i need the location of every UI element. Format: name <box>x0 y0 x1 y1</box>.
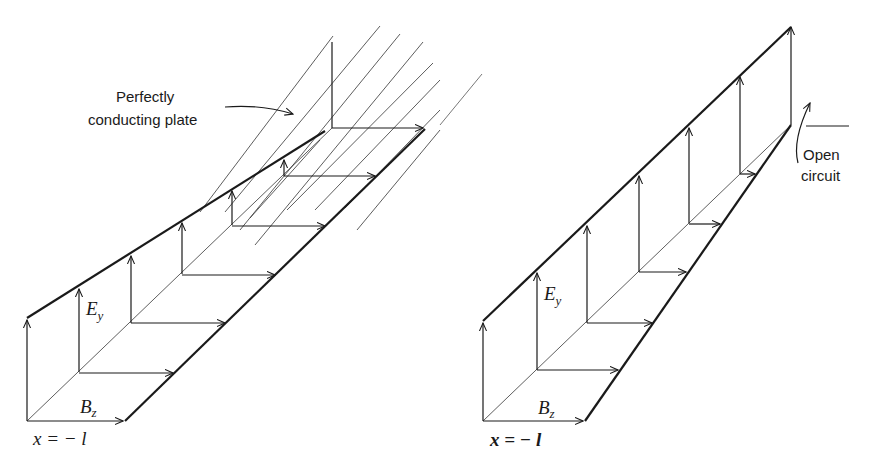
e-field-arrows <box>27 160 284 421</box>
floor-diagonal <box>27 128 332 421</box>
b-field-arrows <box>483 174 755 421</box>
plate-label-line1: Perfectly <box>116 88 175 105</box>
right-panel-labels: Open circuit Ey Bz x = − l <box>489 146 841 450</box>
floor-diagonal <box>483 125 791 421</box>
right-e-label: Ey <box>543 283 562 308</box>
plate-pointer-arrow <box>225 106 293 114</box>
left-panel-short-circuit <box>27 26 440 421</box>
bottom-conductor <box>585 125 791 421</box>
open-label-line1: Open <box>803 146 840 163</box>
plate-label-line2: conducting plate <box>88 111 197 128</box>
right-b-label: Bz <box>538 397 555 421</box>
b-field-arrows <box>27 128 423 421</box>
left-e-label: Ey <box>85 298 104 323</box>
left-b-label: Bz <box>80 396 97 420</box>
stray-hatch-line <box>440 74 482 125</box>
open-label-line2: circuit <box>801 167 841 184</box>
top-conductor <box>27 131 325 318</box>
right-position-label: x = − l <box>489 429 542 450</box>
left-panel-labels: Perfectly conducting plate Ey Bz x = − l <box>32 88 197 449</box>
figure-canvas: Perfectly conducting plate Ey Bz x = − l <box>0 0 874 467</box>
conducting-plate-hatching <box>200 26 440 245</box>
left-position-label: x = − l <box>32 428 87 449</box>
e-field-arrows <box>483 27 791 421</box>
right-panel-open-circuit <box>440 27 849 421</box>
